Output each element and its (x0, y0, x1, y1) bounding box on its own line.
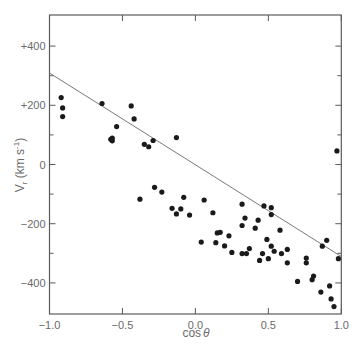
y-tick-label: +200 (21, 99, 46, 111)
data-point (304, 260, 309, 265)
data-point (178, 206, 183, 211)
data-point (260, 251, 265, 256)
data-point (279, 251, 284, 256)
data-point (202, 197, 207, 202)
x-tick-label: −1.0 (39, 319, 61, 331)
data-point (229, 250, 234, 255)
data-points (59, 95, 341, 309)
data-point (257, 258, 262, 263)
data-point (311, 274, 316, 279)
data-point (150, 138, 155, 143)
data-point (247, 246, 252, 251)
axis-tick-labels: −1.0−0.50.00.51.0+400+2000−200−400 (21, 40, 349, 331)
data-point (60, 114, 65, 119)
data-point (142, 142, 147, 147)
data-point (187, 213, 192, 218)
data-point (132, 116, 137, 121)
y-axis-label: Vr (km s-1) (12, 138, 29, 192)
data-point (264, 237, 269, 242)
data-point (320, 244, 325, 249)
data-point (222, 243, 227, 248)
y-tick-label: +400 (21, 40, 46, 52)
data-point (137, 197, 142, 202)
data-point (159, 189, 164, 194)
data-point (269, 244, 274, 249)
data-point (285, 247, 290, 252)
data-point (269, 212, 274, 217)
data-point (285, 260, 290, 265)
data-point (261, 203, 266, 208)
data-point (210, 210, 215, 215)
x-tick-label: 0.5 (261, 319, 276, 331)
data-point (99, 101, 104, 106)
data-point (318, 289, 323, 294)
data-point (272, 249, 277, 254)
x-tick-label: 1.0 (334, 319, 349, 331)
data-point (114, 124, 119, 129)
data-point (59, 95, 64, 100)
y-tick-label: −200 (21, 218, 46, 230)
data-point (174, 135, 179, 140)
y-tick-label: −400 (21, 277, 46, 289)
data-point (327, 283, 332, 288)
data-point (60, 105, 65, 110)
data-point (256, 218, 261, 223)
data-point (181, 195, 186, 200)
data-point (336, 256, 341, 261)
regression-line (50, 73, 342, 257)
data-point (226, 233, 231, 238)
y-tick-label: 0 (39, 159, 45, 171)
data-point (295, 279, 300, 284)
data-point (110, 138, 115, 143)
data-point (331, 304, 336, 309)
data-point (152, 185, 157, 190)
data-point (218, 230, 223, 235)
data-point (199, 239, 204, 244)
x-tick-label: −0.5 (112, 319, 134, 331)
data-point (169, 206, 174, 211)
data-point (242, 215, 247, 220)
data-point (328, 296, 333, 301)
data-point (324, 238, 329, 243)
data-point (269, 205, 274, 210)
data-point (244, 251, 249, 256)
data-point (239, 202, 244, 207)
x-axis-label: cosθ (182, 326, 210, 340)
data-point (146, 144, 151, 149)
data-point (174, 211, 179, 216)
data-point (304, 255, 309, 260)
data-point (213, 240, 218, 245)
data-point (277, 228, 282, 233)
data-point (266, 256, 271, 261)
data-point (239, 223, 244, 228)
data-point (129, 103, 134, 108)
data-point (334, 148, 339, 153)
scatter-chart: −1.0−0.50.00.51.0+400+2000−200−400 cosθ … (0, 0, 358, 356)
data-point (253, 226, 258, 231)
